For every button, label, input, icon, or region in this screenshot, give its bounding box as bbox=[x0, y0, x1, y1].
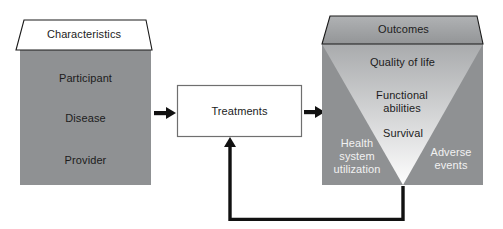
outcomes-lid-label: Outcomes bbox=[330, 23, 477, 36]
funnel-level-functional-abilities: Functional abilities bbox=[366, 89, 438, 115]
outcomes-side-adverse-events: Adverse events bbox=[421, 146, 481, 172]
causal-pathway-diagram: Characteristics Participant Disease Prov… bbox=[0, 0, 503, 229]
arrow-treatments-to-outcomes bbox=[304, 106, 325, 118]
outcomes-side-health-system-utilization: Health system utilization bbox=[326, 137, 388, 176]
characteristics-item-participant: Participant bbox=[20, 72, 151, 85]
characteristics-lid-label: Characteristics bbox=[16, 28, 152, 41]
treatments-label: Treatments bbox=[177, 105, 302, 118]
funnel-level-quality-of-life: Quality of life bbox=[332, 56, 473, 69]
characteristics-item-provider: Provider bbox=[20, 154, 151, 167]
characteristics-item-disease: Disease bbox=[20, 112, 151, 125]
arrow-characteristics-to-treatments bbox=[154, 107, 176, 119]
